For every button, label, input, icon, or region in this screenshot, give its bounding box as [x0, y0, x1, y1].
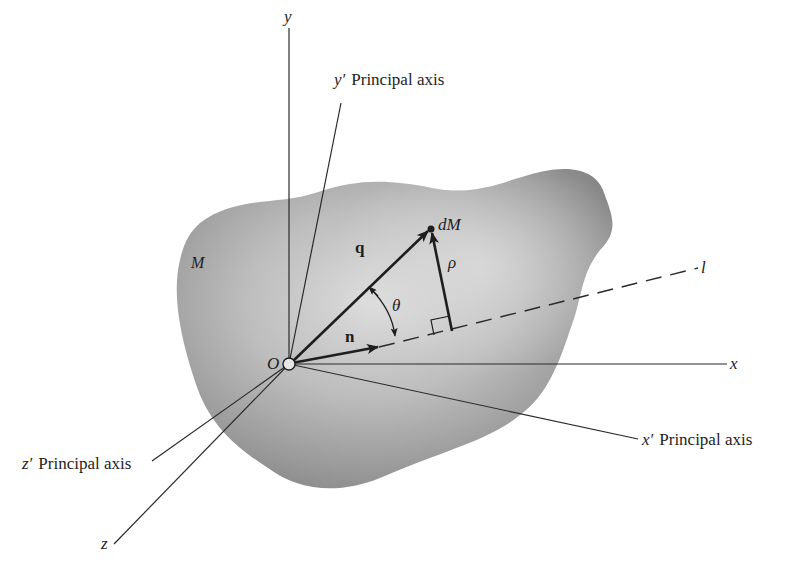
x-prime-axis-label: x′Principal axis [641, 430, 752, 449]
z-prime-axis-label: z′Principal axis [21, 454, 131, 473]
y-prime-axis-label: y′Principal axis [332, 70, 444, 89]
y-axis-label: y [282, 7, 292, 26]
body-label-M: M [190, 254, 206, 271]
body-highlight [177, 169, 613, 488]
vector-q-label: q [355, 238, 365, 257]
vector-rho-label: ρ [447, 253, 456, 272]
mass-element-dot [428, 226, 435, 233]
line-l-label: l [701, 258, 706, 277]
x-axis-label: x [729, 354, 738, 373]
z-axis-label: z [100, 534, 108, 553]
mass-element-label: dM [438, 215, 462, 234]
vector-n-label: n [345, 327, 355, 346]
origin-point [283, 358, 295, 370]
principal-axes-diagram: y y′Principal axis x x′Principal axis z′… [0, 0, 800, 576]
angle-theta-label: θ [392, 296, 400, 315]
origin-label-O: O [267, 354, 279, 373]
rigid-body [177, 169, 613, 488]
